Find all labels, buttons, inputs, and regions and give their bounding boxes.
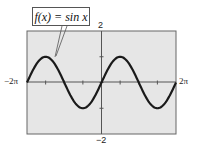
y-tick-bottom: −2 xyxy=(96,135,106,145)
x-tick-left: −2π xyxy=(4,76,18,86)
x-tick-right: 2π xyxy=(179,76,188,86)
y-tick-top: 2 xyxy=(98,20,103,30)
function-label: f(x) = sin x xyxy=(32,7,90,26)
